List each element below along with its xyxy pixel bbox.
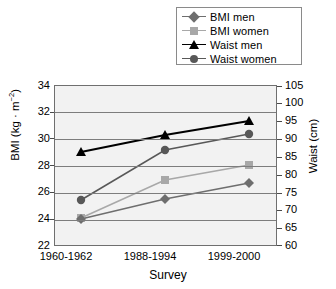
legend-item-bmi-women: BMI women bbox=[177, 24, 301, 38]
y-axis-left-title: BMI (kg · m−2) bbox=[7, 65, 21, 185]
line-bmi-women bbox=[81, 165, 249, 218]
ytick-left-26: 26 bbox=[30, 186, 50, 197]
ytick-left-24: 24 bbox=[30, 213, 50, 224]
gridline-26 bbox=[55, 193, 276, 194]
gridline-32 bbox=[55, 112, 276, 113]
legend-item-bmi-men: BMI men bbox=[177, 10, 301, 24]
ytick-right-80: 80 bbox=[285, 169, 307, 180]
ytick-right-95: 95 bbox=[285, 115, 307, 126]
ytick-right-65: 65 bbox=[285, 222, 307, 233]
ytick-left-30: 30 bbox=[30, 133, 50, 144]
legend-marker-triangle-icon bbox=[181, 39, 207, 51]
legend-marker-square-icon bbox=[181, 25, 207, 37]
ytick-right-100: 100 bbox=[285, 97, 307, 108]
legend-marker-circle-icon bbox=[181, 53, 207, 65]
ytick-right-105: 105 bbox=[285, 80, 307, 91]
ytick-left-32: 32 bbox=[30, 106, 50, 117]
legend-label: Waist women bbox=[210, 53, 277, 65]
legend-marker-diamond-icon bbox=[181, 11, 207, 23]
legend-item-waist-women: Waist women bbox=[177, 52, 301, 66]
legend-item-waist-men: Waist men bbox=[177, 38, 301, 52]
legend-label: BMI women bbox=[210, 25, 269, 37]
legend-label: Waist men bbox=[210, 39, 262, 51]
ytick-right-85: 85 bbox=[285, 151, 307, 162]
line-waist-women bbox=[81, 134, 249, 200]
x-axis-title: Survey bbox=[0, 268, 336, 282]
ytick-left-28: 28 bbox=[30, 160, 50, 171]
gridline-24 bbox=[55, 220, 276, 221]
gridline-30 bbox=[55, 139, 276, 140]
legend-label: BMI men bbox=[210, 11, 255, 23]
ytick-right-60: 60 bbox=[285, 240, 307, 251]
ytick-right-70: 70 bbox=[285, 204, 307, 215]
plot-area bbox=[54, 85, 277, 246]
chart-figure: BMI men BMI women Waist men Waist women bbox=[0, 0, 336, 289]
xtick-1960-1962: 1960-1962 bbox=[26, 250, 106, 262]
xtick-1988-1994: 1988-1994 bbox=[110, 250, 190, 262]
xtick-1999-2000: 1999-2000 bbox=[194, 250, 274, 262]
gridline-28 bbox=[55, 166, 276, 167]
ytick-right-75: 75 bbox=[285, 187, 307, 198]
chart-legend: BMI men BMI women Waist men Waist women bbox=[176, 7, 302, 65]
markers-bmi-men bbox=[76, 178, 254, 224]
ytick-left-34: 34 bbox=[30, 80, 50, 91]
ytick-right-90: 90 bbox=[285, 133, 307, 144]
y-axis-right-title: Waist (cm) bbox=[307, 101, 319, 191]
